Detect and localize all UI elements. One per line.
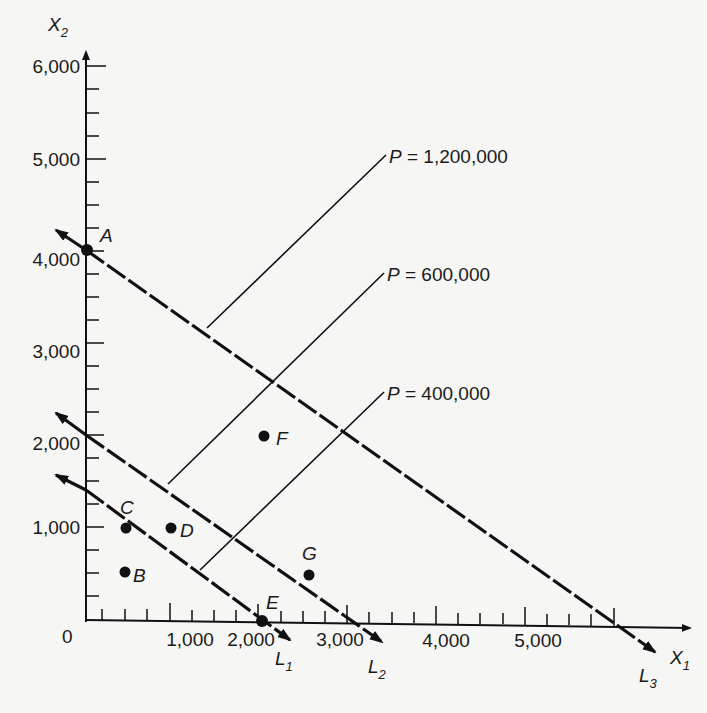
point-D: [166, 523, 177, 534]
svg-text:5,000: 5,000: [514, 630, 562, 651]
p-600000-label: P = 600,000: [387, 264, 490, 285]
y-axis-label: X2: [47, 14, 69, 40]
x-tick-labels: 1,000 2,000 3,000 4,000 5,000: [166, 629, 562, 651]
y-ticks: [86, 66, 106, 596]
point-A: [81, 244, 93, 256]
x-axis: [86, 620, 690, 628]
isoprofit-diagram: X2 X1 0 6,000 5,000 4,000 3,000 2,000 1,…: [0, 0, 707, 713]
svg-text:1,000: 1,000: [32, 517, 80, 538]
svg-text:B: B: [133, 565, 146, 586]
svg-text:4,000: 4,000: [422, 630, 470, 651]
svg-text:E: E: [266, 592, 279, 613]
svg-text:C: C: [120, 497, 134, 518]
point-C: [121, 523, 132, 534]
svg-text:D: D: [180, 520, 194, 541]
svg-text:G: G: [302, 543, 317, 564]
x-axis-label: X1: [669, 647, 690, 673]
point-E: [256, 615, 268, 627]
svg-text:A: A: [99, 225, 113, 246]
y-tick-labels: 6,000 5,000 4,000 3,000 2,000 1,000: [32, 56, 80, 538]
point-F: [259, 431, 270, 442]
svg-text:2,000: 2,000: [32, 433, 80, 454]
line-L1-label: L1: [275, 648, 293, 674]
svg-text:2,000: 2,000: [227, 629, 275, 650]
svg-text:3,000: 3,000: [316, 629, 364, 650]
line-L3: [56, 230, 655, 652]
svg-text:3,000: 3,000: [32, 341, 80, 362]
origin-label: 0: [62, 626, 73, 647]
line-L2-label: L2: [368, 656, 387, 682]
p-1200000-label: P = 1,200,000: [389, 146, 508, 167]
x-ticks: [102, 603, 614, 626]
line-L2: [56, 413, 382, 642]
point-B: [120, 567, 131, 578]
line-L1: [56, 475, 290, 640]
svg-text:F: F: [276, 428, 289, 449]
svg-text:5,000: 5,000: [32, 149, 80, 170]
p-400000-label: P = 400,000: [387, 383, 490, 404]
svg-text:6,000: 6,000: [32, 56, 80, 77]
leader-lines: [168, 155, 386, 570]
svg-text:4,000: 4,000: [32, 249, 80, 270]
line-L3-label: L3: [639, 665, 658, 691]
point-G: [304, 570, 315, 581]
svg-text:1,000: 1,000: [166, 629, 214, 650]
